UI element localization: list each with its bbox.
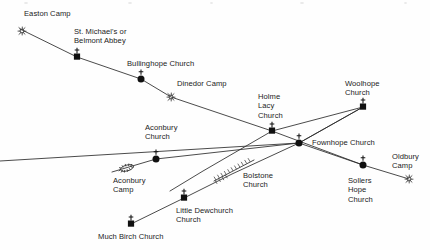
marker-much-birch[interactable] — [128, 215, 134, 227]
label-oldbury-camp: OldburyCamp — [392, 152, 419, 171]
scan-artifact — [24, 2, 28, 4]
label-aconbury-camp: AconburyCamp — [113, 176, 145, 195]
scan-artifact — [128, 2, 132, 4]
label-much-birch: Much Birch Church — [98, 232, 163, 241]
scan-artifact — [300, 2, 304, 4]
label-holme-lacy: HolmeLacyChurch — [258, 92, 283, 120]
marker-st-michaels[interactable] — [74, 48, 80, 60]
marker-bullinghope[interactable] — [138, 70, 145, 83]
alignment-line — [272, 131, 363, 165]
label-easton-camp: Easton Camp — [24, 9, 71, 18]
marker-woolhope[interactable] — [360, 98, 366, 110]
label-sollers-hope: SollersHopeChurch — [348, 176, 373, 204]
label-dinedor-camp: Dinedor Camp — [177, 79, 227, 88]
label-bolstone: BolstoneChurch — [243, 171, 273, 190]
alignment-line — [0, 143, 299, 161]
label-st-michaels: St. Michael's orBelmont Abbey — [74, 27, 126, 46]
label-woolhope: WoolhopeChurch — [345, 79, 379, 98]
label-bullinghope: Bullinghope Church — [127, 59, 194, 68]
marker-holme-lacy[interactable] — [269, 122, 275, 134]
label-fownhope: Fownhope Church — [312, 138, 375, 147]
marker-easton-camp[interactable] — [18, 27, 26, 35]
label-aconbury-church: AconburyChurch — [145, 123, 177, 142]
marker-sollers-hope[interactable] — [360, 156, 367, 169]
scan-artifact — [404, 2, 407, 4]
label-little-dewchurch: Little DewchurchChurch — [176, 206, 233, 225]
scan-artifact — [210, 2, 213, 4]
marker-little-dewchurch[interactable] — [181, 189, 187, 201]
ley-line-map: Easton Camp St. Michael's orBelmont Abbe… — [0, 0, 430, 250]
